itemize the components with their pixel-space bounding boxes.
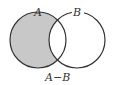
label-a: A: [33, 6, 42, 19]
caption-a-minus-b: A−B: [44, 71, 70, 84]
label-b: B: [72, 6, 81, 19]
venn-diagram: A B A−B: [0, 0, 113, 85]
